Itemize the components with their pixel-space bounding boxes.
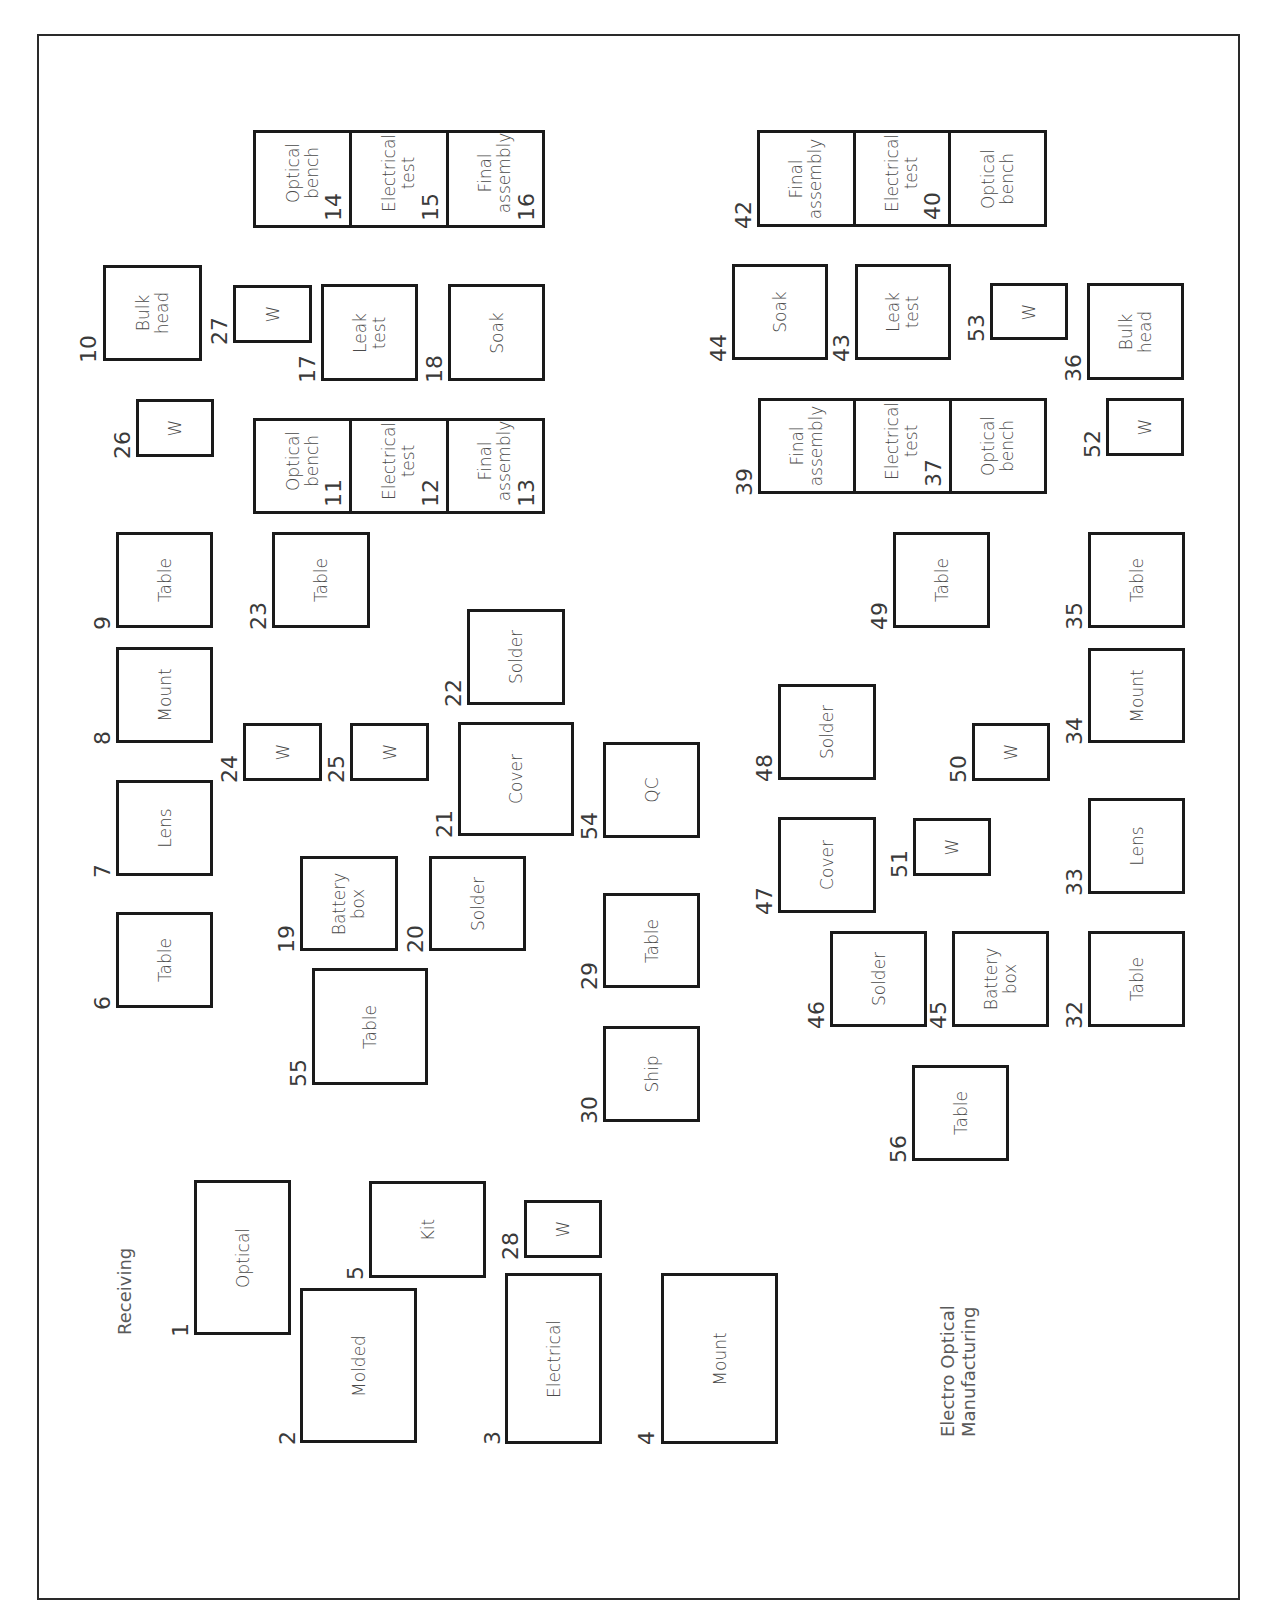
station-label: Solder (869, 952, 888, 1006)
bench-cell: Final assembly (761, 401, 853, 491)
station-number: 17 (297, 355, 319, 383)
station-label: Soak (771, 291, 790, 332)
station-number: 43 (831, 334, 853, 362)
station-number: 55 (288, 1059, 310, 1087)
station-52: W (1106, 398, 1184, 456)
station-label: Lens (155, 808, 174, 847)
bench-cell-label: Optical bench (284, 143, 321, 203)
station-label: Lens (1127, 826, 1146, 865)
bench-cell-label: Final assembly (788, 138, 825, 219)
station-49: Table (893, 532, 990, 628)
station-label: W (263, 306, 282, 323)
station-number: 51 (889, 850, 911, 878)
station-17: Leak test (321, 284, 418, 381)
station-53: W (990, 283, 1068, 340)
station-number: 25 (326, 755, 348, 783)
station-number: 35 (1064, 602, 1086, 630)
station-label: Battery box (330, 872, 367, 934)
station-1: Optical (194, 1180, 291, 1335)
station-label: W (554, 1221, 573, 1238)
station-number: 50 (948, 755, 970, 783)
station-label: QC (642, 777, 661, 802)
station-number: 30 (579, 1096, 601, 1124)
station-number: 33 (1064, 868, 1086, 896)
receiving-area-label: Receiving (115, 1248, 136, 1335)
station-number: 22 (443, 679, 465, 707)
station-label: Bulk head (134, 292, 171, 334)
station-33: Lens (1088, 798, 1185, 894)
station-35: Table (1088, 532, 1185, 628)
bench-cell-11: Optical bench11 (256, 421, 349, 511)
station-label: Molded (349, 1335, 368, 1397)
station-3: Electrical (505, 1273, 602, 1444)
station-label: W (166, 420, 185, 437)
station-label: W (1136, 419, 1155, 436)
station-label: Solder (818, 705, 837, 759)
bench-cell-15: Electrical test15 (349, 133, 445, 225)
station-number: 27 (209, 317, 231, 345)
bench-cell-16: Final assembly16 (446, 133, 542, 225)
station-label: Bulk head (1117, 310, 1154, 352)
station-label: Cover (507, 754, 526, 804)
station-label: W (380, 744, 399, 761)
bench-cell-number: 13 (516, 479, 538, 507)
station-label: W (273, 744, 292, 761)
station-label: Leak test (351, 313, 388, 353)
station-number: 32 (1064, 1001, 1086, 1029)
bench-cell-number: 37 (923, 459, 945, 487)
station-10: Bulk head (103, 265, 202, 361)
station-label: W (1002, 744, 1021, 761)
station-label: Cover (818, 840, 837, 890)
station-label: Table (1127, 957, 1146, 1001)
station-number: 52 (1082, 430, 1104, 458)
station-number: 53 (966, 314, 988, 342)
bench-cell-label: Optical bench (979, 416, 1016, 476)
bench-cell: Final assembly (760, 133, 853, 224)
station-5: Kit (369, 1181, 486, 1278)
station-9: Table (116, 532, 213, 628)
bench-cell-label: Electrical test (884, 402, 921, 480)
bench-cell-label: Final assembly (788, 406, 825, 487)
station-label: Table (312, 558, 331, 602)
station-43: Leak test (855, 264, 951, 360)
bench-cell-37: Electrical test37 (853, 401, 948, 491)
station-number: 56 (888, 1135, 910, 1163)
station-label: Ship (642, 1055, 661, 1092)
station-label: Solder (507, 630, 526, 684)
bench-cell-number: 12 (420, 479, 442, 507)
station-label: Mount (1127, 669, 1146, 722)
bench-cell: Optical bench (948, 133, 1044, 224)
station-46: Solder (830, 931, 927, 1027)
station-label: Leak test (884, 292, 921, 332)
station-number: 4 (636, 1431, 658, 1445)
station-20: Solder (429, 856, 526, 951)
station-30: Ship (603, 1026, 700, 1122)
station-50: W (972, 723, 1050, 781)
station-label: W (1020, 303, 1039, 320)
station-label: Optical (233, 1227, 252, 1287)
station-27: W (233, 285, 312, 343)
station-44: Soak (732, 264, 828, 360)
station-number: 10 (78, 335, 100, 363)
station-45: Battery box (952, 931, 1049, 1027)
station-label: Kit (418, 1218, 437, 1241)
station-number: 2 (277, 1431, 299, 1445)
bench-cell-label: Final assembly (477, 420, 514, 501)
station-number: 36 (1063, 354, 1085, 382)
station-number: 1 (170, 1323, 192, 1337)
bench-cell-label: Electrical test (883, 134, 920, 212)
station-number: 6 (92, 996, 114, 1010)
bench-cell-number: 14 (323, 193, 345, 221)
station-25: W (350, 723, 429, 781)
station-48: Solder (778, 684, 876, 780)
station-label: Electrical (544, 1319, 563, 1397)
station-8: Mount (116, 647, 213, 743)
bench-cell-label: Final assembly (477, 133, 514, 214)
station-label: W (943, 839, 962, 856)
station-36: Bulk head (1087, 283, 1184, 380)
bench-group-42-40: Final assemblyElectrical test40Optical b… (757, 130, 1047, 227)
station-number: 5 (345, 1266, 367, 1280)
station-label: Mount (155, 668, 174, 721)
station-number: 19 (276, 925, 298, 953)
bench-cell-number: 15 (420, 193, 442, 221)
